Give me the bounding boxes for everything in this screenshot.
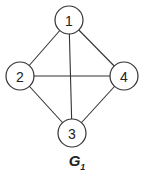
node-label: 3 — [68, 126, 76, 142]
node-label: 1 — [65, 13, 73, 29]
node-2: 2 — [6, 62, 34, 90]
node-label: 2 — [16, 69, 24, 85]
node-label: 4 — [120, 69, 128, 85]
node-4: 4 — [110, 62, 138, 90]
node-1: 1 — [55, 6, 83, 34]
graph-subscript: 1 — [80, 162, 85, 172]
node-3: 3 — [58, 119, 86, 147]
graph-label: G1 — [60, 152, 94, 172]
graph-diagram: 1234 — [0, 0, 144, 174]
graph-name: G — [69, 152, 81, 169]
